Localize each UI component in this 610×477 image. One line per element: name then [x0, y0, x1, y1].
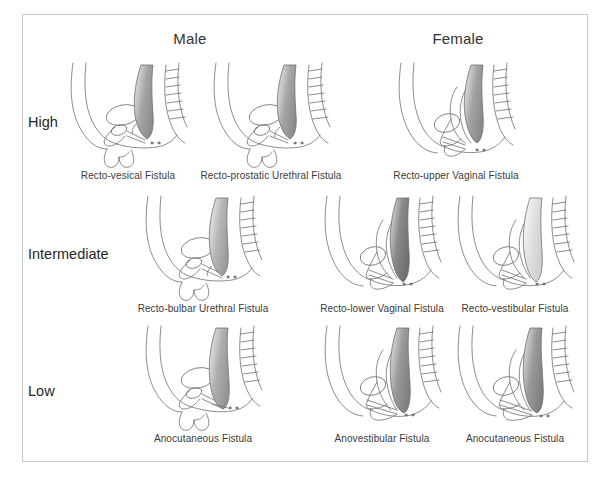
column-header-female: Female: [432, 30, 483, 47]
figure-caption: Anovestibular Fistula: [307, 433, 457, 444]
diagram-cell: Recto-lower Vaginal Fistula: [307, 190, 457, 314]
male-pelvis-sagittal-illustration: [128, 190, 278, 302]
figure-caption: Anocutaneous Fistula: [440, 433, 590, 444]
diagram-cell: Recto-vesical Fistula: [53, 57, 203, 181]
female-pelvis-sagittal-illustration: [307, 320, 457, 432]
figure-caption: Recto-lower Vaginal Fistula: [307, 303, 457, 314]
male-pelvis-sagittal-illustration: [128, 320, 278, 432]
column-header-male: Male: [173, 30, 206, 47]
figure-caption: Recto-bulbar Urethral Fistula: [128, 303, 278, 314]
figure-caption: Recto-upper Vaginal Fistula: [381, 170, 531, 181]
diagram-cell: Recto-bulbar Urethral Fistula: [128, 190, 278, 314]
male-pelvis-sagittal-illustration: [53, 57, 203, 169]
female-pelvis-sagittal-illustration: [440, 320, 590, 432]
diagram-cell: Recto-prostatic Urethral Fistula: [196, 57, 346, 181]
figure-caption: Recto-prostatic Urethral Fistula: [196, 170, 346, 181]
diagram-cell: Recto-vestibular Fistula: [440, 190, 590, 314]
figure-caption: Recto-vesical Fistula: [53, 170, 203, 181]
row-label-intermediate: Intermediate: [28, 246, 109, 262]
diagram-cell: Anocutaneous Fistula: [128, 320, 278, 444]
male-pelvis-sagittal-illustration: [196, 57, 346, 169]
female-pelvis-sagittal-illustration: [440, 190, 590, 302]
female-pelvis-sagittal-illustration: [381, 57, 531, 169]
diagram-cell: Anovestibular Fistula: [307, 320, 457, 444]
figure-caption: Recto-vestibular Fistula: [440, 303, 590, 314]
female-pelvis-sagittal-illustration: [307, 190, 457, 302]
diagram-cell: Anocutaneous Fistula: [440, 320, 590, 444]
figure-caption: Anocutaneous Fistula: [128, 433, 278, 444]
row-label-low: Low: [28, 383, 55, 399]
diagram-cell: Recto-upper Vaginal Fistula: [381, 57, 531, 181]
